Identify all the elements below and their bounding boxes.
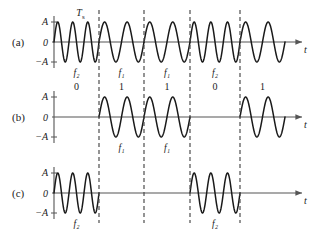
waveform-row-c: (c)A0−Atf₂f₂ [12, 167, 307, 229]
y-label-bottom-a: −A [35, 56, 49, 67]
waveform-row-a: (a)A0−Atf₂f₁f₁f₂ [12, 16, 307, 78]
y-label-bottom-c: −A [35, 207, 49, 218]
segment-freq-label-b-1: f₁ [119, 143, 125, 153]
bit-value-4: 1 [260, 81, 265, 92]
bit-value-1: 1 [119, 81, 124, 92]
wave-segment-c-0 [54, 173, 99, 213]
bit-value-0: 0 [74, 81, 79, 92]
segment-freq-label-a-1: f₁ [119, 68, 125, 78]
wave-segment-a-0 [54, 22, 99, 62]
x-axis-label-a: t [304, 44, 307, 55]
segment-freq-label-b-2: f₁ [164, 143, 170, 153]
symbol-period-label: Ts [76, 7, 85, 21]
y-label-top-c: A [41, 167, 49, 178]
fsk-waveform-svg: (a)A0−Atf₂f₁f₁f₂(b)A0−Atf₁f₁(c)A0−Atf₂f₂… [0, 0, 322, 231]
y-label-bottom-b: −A [35, 131, 49, 142]
y-label-top-a: A [41, 16, 49, 27]
waveform-row-b: (b)A0−Atf₁f₁ [12, 91, 307, 153]
y-label-top-b: A [41, 91, 49, 102]
segment-freq-label-a-3: f₂ [212, 68, 219, 78]
x-axis-label-b: t [304, 119, 307, 130]
row-label-c: (c) [12, 187, 25, 200]
segment-freq-label-c-0: f₂ [74, 219, 81, 229]
segment-freq-label-a-2: f₁ [164, 68, 170, 78]
bit-value-3: 0 [213, 81, 218, 92]
row-label-a: (a) [12, 36, 25, 49]
y-label-zero-c: 0 [43, 188, 48, 199]
y-label-zero-b: 0 [43, 112, 48, 123]
segment-freq-label-c-3: f₂ [212, 219, 219, 229]
fsk-figure: (a)A0−Atf₂f₁f₁f₂(b)A0−Atf₁f₁(c)A0−Atf₂f₂… [0, 0, 322, 231]
segment-freq-label-a-0: f₂ [74, 68, 81, 78]
bit-value-2: 1 [165, 81, 170, 92]
y-label-zero-a: 0 [43, 37, 48, 48]
row-label-b: (b) [12, 111, 25, 124]
x-axis-label-c: t [304, 195, 307, 206]
